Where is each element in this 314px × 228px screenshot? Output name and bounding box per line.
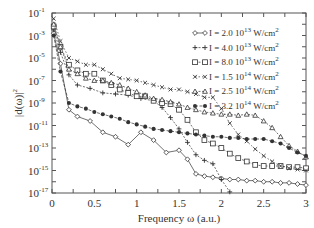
x-tick-label: 2 xyxy=(219,197,225,209)
svg-text:I = 1.5 1014 W/cm2: I = 1.5 1014 W/cm2 xyxy=(209,70,279,82)
svg-text:I = 3.2 1014 W/cm2: I = 3.2 1014 W/cm2 xyxy=(209,99,279,111)
legend-item: I = 1.5 1014 W/cm2 xyxy=(193,70,279,82)
chart: 10-110-310-510-710-910-1110-1310-1510-17… xyxy=(0,0,314,228)
legend-item: I = 8.0 1013 W/cm2 xyxy=(193,55,280,67)
y-tick-label: 10-17 xyxy=(28,186,49,199)
y-tick-label: 10-15 xyxy=(28,164,49,177)
legend-item: I = 4.0 1013 W/cm2 xyxy=(193,41,280,53)
legend-item: I = 2.0 1013 W/cm2 xyxy=(193,26,280,38)
svg-text:I = 8.0 1013 W/cm2: I = 8.0 1013 W/cm2 xyxy=(209,55,279,67)
svg-text:I = 4.0 1013 W/cm2: I = 4.0 1013 W/cm2 xyxy=(209,41,279,53)
x-tick-label: 1 xyxy=(134,197,140,209)
y-tick-label: 10-13 xyxy=(28,141,49,154)
svg-text:I = 2.5 1014 W/cm2: I = 2.5 1014 W/cm2 xyxy=(209,84,279,96)
y-tick-label: 10-11 xyxy=(28,119,49,132)
x-axis-title: Frequency ω (a.u.) xyxy=(138,212,221,225)
x-tick-label: 1.5 xyxy=(172,197,186,209)
legend-item: I = 3.2 1014 W/cm2 xyxy=(193,99,279,111)
y-tick-label: 10-1 xyxy=(28,6,45,19)
y-tick-label: 10-7 xyxy=(28,74,45,87)
y-tick-label: 10-5 xyxy=(28,51,45,64)
y-tick-label: 10-9 xyxy=(28,96,45,109)
x-tick-label: 3 xyxy=(303,197,309,209)
y-tick-label: 10-3 xyxy=(28,29,45,42)
y-axis-title: |d(ω)|2 xyxy=(11,89,25,117)
svg-text:I = 2.0 1013 W/cm2: I = 2.0 1013 W/cm2 xyxy=(209,26,279,38)
x-tick-label: 0 xyxy=(49,197,55,209)
x-tick-label: 0.5 xyxy=(87,197,101,209)
legend-item: I = 2.5 1014 W/cm2 xyxy=(193,84,280,96)
x-tick-label: 2.5 xyxy=(257,197,271,209)
